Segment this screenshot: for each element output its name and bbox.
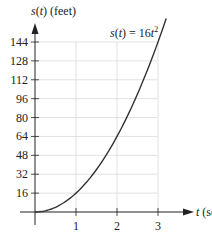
y-tick-label: 32 [16, 167, 28, 181]
y-tick-label: 112 [10, 73, 28, 87]
y-tick-label: 48 [16, 148, 28, 162]
y-tick-label: 80 [16, 111, 28, 125]
curve-s-of-t [35, 19, 166, 212]
x-tick-label: 3 [155, 219, 161, 233]
equation-label: s(t) = 16t2 [110, 25, 158, 40]
y-tick-label: 64 [16, 129, 28, 143]
chart: 163248648096112128144123 s(t) (feet) s(t… [0, 0, 212, 245]
y-tick-label: 128 [10, 54, 28, 68]
x-tick-label: 1 [73, 219, 79, 233]
y-tick-label: 96 [16, 92, 28, 106]
y-tick-label: 16 [16, 186, 28, 200]
ticks: 163248648096112128144123 [10, 35, 161, 233]
axes [20, 23, 194, 225]
y-axis-label: s(t) (feet) [31, 4, 76, 18]
x-axis-arrow-icon [183, 209, 194, 216]
x-axis-label: t (sec) [196, 205, 212, 219]
y-tick-label: 144 [10, 35, 28, 49]
grid [35, 42, 158, 212]
y-axis-arrow-icon [32, 23, 39, 34]
x-tick-label: 2 [114, 219, 120, 233]
